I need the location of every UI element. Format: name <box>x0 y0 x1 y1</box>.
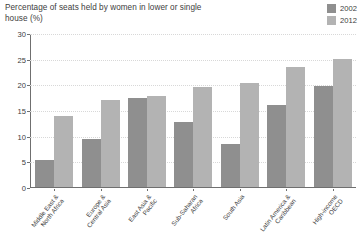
bar-2002 <box>221 144 240 187</box>
x-tick-label: Sub-Saharan Africa <box>170 193 205 232</box>
y-tick-label: 15 <box>18 107 26 116</box>
y-tick-label: 25 <box>18 55 26 64</box>
y-tick-mark <box>27 111 30 112</box>
bar-group <box>263 34 309 187</box>
y-tick-mark <box>27 137 30 138</box>
x-axis-line <box>30 187 356 188</box>
y-tick-mark <box>27 60 30 61</box>
x-tick-mark <box>147 189 148 191</box>
bar-group <box>124 34 170 187</box>
y-tick-mark <box>27 188 30 189</box>
bar-group <box>170 34 216 187</box>
x-tick-label: East Asia & Pacific <box>127 193 159 228</box>
x-tick-mark <box>193 189 194 191</box>
bar-2012 <box>54 116 73 187</box>
bar-2002 <box>82 139 101 187</box>
y-tick-label: 30 <box>18 30 26 39</box>
bar-2012 <box>333 59 352 187</box>
y-tick-label: 10 <box>18 132 26 141</box>
bar-2002 <box>174 122 193 187</box>
x-axis-label-slot: Europe & Central Asia <box>77 189 123 246</box>
y-tick-mark <box>27 85 30 86</box>
bar-2002 <box>314 86 333 187</box>
x-tick-mark <box>240 189 241 191</box>
x-axis-label-slot: High-income OECD <box>310 189 356 246</box>
y-tick-label: 0 <box>22 184 26 193</box>
legend-swatch-2012 <box>327 16 336 25</box>
bar-2002 <box>35 160 54 187</box>
bar-group <box>31 34 77 187</box>
chart-legend: 2002 2012 <box>327 4 357 25</box>
legend-entry-2012: 2012 <box>327 16 357 25</box>
bar-2012 <box>147 96 166 187</box>
legend-swatch-2002 <box>327 4 336 13</box>
x-axis-label-slot: South Asia <box>217 189 263 246</box>
x-axis-label-slot: Latin America & Caribbean <box>263 189 309 246</box>
legend-label-2002: 2002 <box>340 4 357 13</box>
plot-area: 051015202530 <box>30 34 356 188</box>
bar-chart: Percentage of seats held by women in low… <box>0 0 362 246</box>
x-axis-labels: Middle East & North AfricaEurope & Centr… <box>31 189 356 246</box>
x-tick-mark <box>101 189 102 191</box>
bar-2012 <box>101 100 120 187</box>
bar-group <box>217 34 263 187</box>
x-tick-mark <box>54 189 55 191</box>
x-tick-label: Latin America & Caribbean <box>259 193 298 237</box>
x-tick-mark <box>333 189 334 191</box>
x-axis-label-slot: Middle East & North Africa <box>31 189 77 246</box>
x-axis-label-slot: Sub-Saharan Africa <box>170 189 216 246</box>
bar-2012 <box>240 83 259 187</box>
x-axis-label-slot: East Asia & Pacific <box>124 189 170 246</box>
bar-2012 <box>286 67 305 187</box>
y-tick-mark <box>27 34 30 35</box>
bar-2002 <box>267 105 286 187</box>
x-tick-label: Middle East & North Africa <box>30 193 66 233</box>
bar-2012 <box>193 87 212 187</box>
x-tick-label: High-income OECD <box>311 193 345 230</box>
bars-layer <box>31 34 356 187</box>
legend-entry-2002: 2002 <box>327 4 357 13</box>
y-tick-label: 5 <box>22 158 26 167</box>
y-tick-mark <box>27 162 30 163</box>
legend-label-2012: 2012 <box>340 16 357 25</box>
y-tick-label: 20 <box>18 81 26 90</box>
x-tick-label: Europe & Central Asia <box>79 193 112 229</box>
bar-group <box>310 34 356 187</box>
bar-group <box>77 34 123 187</box>
x-tick-label: South Asia <box>221 193 246 222</box>
chart-title: Percentage of seats held by women in low… <box>5 2 215 24</box>
x-tick-mark <box>286 189 287 191</box>
bar-2002 <box>128 98 147 187</box>
